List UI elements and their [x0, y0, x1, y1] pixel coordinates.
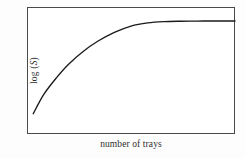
x-axis-title: number of trays: [27, 139, 235, 149]
curve-layer: [27, 7, 235, 134]
data-curve-path: [33, 21, 235, 114]
y-axis-title-suffix: ): [29, 57, 39, 60]
y-axis-title-variable: S: [29, 60, 39, 65]
figure-container: log (S) number of trays: [0, 0, 245, 158]
y-axis-title: log (S): [24, 7, 44, 134]
y-axis-title-prefix: log (: [29, 65, 39, 84]
